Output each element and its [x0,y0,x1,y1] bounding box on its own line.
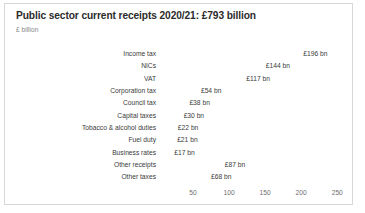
bar-category-label: Council tax [123,99,156,106]
chart-axis-units-subtitle: £ billion [16,26,38,33]
bar [157,111,179,119]
bar-value-label: £38 bn [184,99,209,106]
bar-category-label: NICs [141,62,156,69]
bar-value-label: £144 bn [261,62,290,69]
bar-row: Corporation tax£54 bn [5,84,352,96]
bar-row: NICs£144 bn [5,59,352,71]
bar [157,86,196,94]
bar-category-label: Business rates [112,148,156,155]
bar [157,160,220,168]
bar-category-label: Corporation tax [110,87,156,94]
bar-row: Business rates£17 bn [5,145,352,157]
bar-category-label: Other receipts [114,160,156,167]
x-axis-tick-labels: 50100150200250 [5,189,352,203]
bar [157,123,173,131]
bar-category-label: VAT [144,74,156,81]
bar [157,147,169,155]
bar-row: Council tax£38 bn [5,96,352,108]
bar-value-label: £196 bn [298,50,327,57]
chart-title: Public sector current receipts 2020/21: … [16,10,256,21]
bar-chart-plot-area: Income tax£196 bnNICs£144 bnVAT£117 bnCo… [5,47,352,187]
chart-frame: Public sector current receipts 2020/21: … [4,3,353,205]
bar-row: Other receipts£87 bn [5,158,352,170]
bar-category-label: Other taxes [121,173,156,180]
bar-value-label: £30 bn [179,111,204,118]
bar-row: Income tax£196 bn [5,47,352,59]
bar-row: Fuel duty£21 bn [5,133,352,145]
bar-value-label: £17 bn [169,148,194,155]
bar-row: Tobacco & alcohol duties£22 bn [5,121,352,133]
bar-value-label: £68 bn [206,173,231,180]
bar-value-label: £22 bn [173,123,198,130]
x-axis-tick-label: 250 [332,189,343,196]
bar [157,49,298,57]
x-axis-tick-label: 150 [260,189,271,196]
bar [157,172,206,180]
bar-row: Capital taxes£30 bn [5,109,352,121]
bar-value-label: £21 bn [172,136,197,143]
bar-category-label: Capital taxes [117,111,156,118]
bar [157,61,261,69]
x-axis-tick-label: 100 [224,189,235,196]
bar-category-label: Fuel duty [128,136,156,143]
bar [157,135,172,143]
bar-value-label: £54 bn [196,87,221,94]
bar-row: VAT£117 bn [5,72,352,84]
bar-row: Other taxes£68 bn [5,170,352,182]
bar-value-label: £117 bn [241,74,270,81]
x-axis-tick-label: 50 [189,189,196,196]
bar [157,98,184,106]
bar-category-label: Income tax [123,50,156,57]
bar-value-label: £87 bn [220,160,245,167]
x-axis-tick-label: 200 [296,189,307,196]
bar [157,74,241,82]
bar-category-label: Tobacco & alcohol duties [82,123,156,130]
